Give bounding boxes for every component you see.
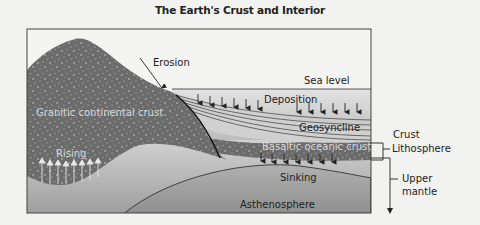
label-sinking: Sinking: [280, 172, 317, 183]
crust-diagram: Erosion Sea level Deposition Granitic co…: [0, 0, 480, 225]
label-deposition: Deposition: [264, 94, 317, 105]
label-rising: Rising: [56, 148, 86, 159]
label-basaltic-crust: Basaltic oceanic crust: [262, 141, 371, 152]
label-geosyncline: Geosyncline: [299, 122, 360, 133]
upper-mantle-down-arrow: [387, 208, 393, 214]
label-erosion: Erosion: [153, 57, 190, 68]
label-granitic-crust: Granitic continental crust: [36, 107, 163, 118]
label-sea-level: Sea level: [304, 75, 350, 86]
label-asthenosphere: Asthenosphere: [240, 199, 315, 210]
label-lithosphere: Lithosphere: [392, 143, 451, 154]
label-upper-mantle-2: mantle: [402, 186, 437, 197]
label-upper-mantle-1: Upper: [402, 173, 433, 184]
label-crust: Crust: [393, 129, 420, 140]
